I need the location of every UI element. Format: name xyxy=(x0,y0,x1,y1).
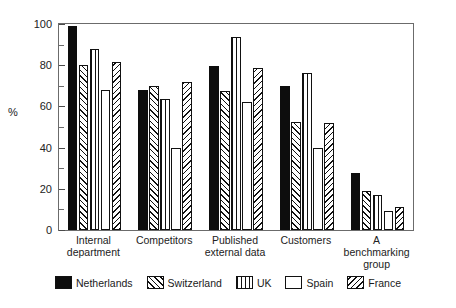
bar[interactable] xyxy=(79,65,89,230)
bar[interactable] xyxy=(68,26,78,230)
legend-item-uk[interactable]: UK xyxy=(236,276,272,289)
bar[interactable] xyxy=(280,86,290,230)
bar[interactable] xyxy=(253,68,263,230)
bar[interactable] xyxy=(313,148,323,230)
legend-item-spain[interactable]: Spain xyxy=(285,276,333,289)
bar-group xyxy=(342,24,413,230)
category-label-line: A xyxy=(329,234,424,246)
bar[interactable] xyxy=(395,207,405,230)
bar[interactable] xyxy=(242,102,252,230)
bar[interactable] xyxy=(90,49,100,230)
legend-label: Switzerland xyxy=(168,277,222,289)
category-label: Abenchmarkinggroup xyxy=(329,234,424,270)
category-label-line: benchmarking xyxy=(329,246,424,258)
legend-swatch-icon xyxy=(236,276,253,289)
bar[interactable] xyxy=(101,90,111,230)
bar[interactable] xyxy=(112,62,122,230)
legend-label: Spain xyxy=(306,277,333,289)
bar[interactable] xyxy=(302,73,312,230)
legend-label: Netherlands xyxy=(76,277,133,289)
legend-swatch-icon xyxy=(285,276,302,289)
y-tick-40: 40 xyxy=(26,142,52,153)
bar[interactable] xyxy=(351,173,361,230)
bar[interactable] xyxy=(209,66,219,230)
legend-item-france[interactable]: France xyxy=(347,276,401,289)
category-label-line: group xyxy=(329,258,424,270)
bar[interactable] xyxy=(384,211,394,230)
y-tick-80: 80 xyxy=(26,60,52,71)
plot-area xyxy=(59,24,413,230)
bar[interactable] xyxy=(171,148,181,230)
y-tick-100: 100 xyxy=(26,19,52,30)
bar[interactable] xyxy=(138,90,148,230)
category-label-line: external data xyxy=(188,246,283,258)
y-axis-tick-labels: 020406080100 xyxy=(26,18,52,234)
legend-label: UK xyxy=(257,277,272,289)
legend-swatch-icon xyxy=(347,276,364,289)
legend-swatch-icon xyxy=(147,276,164,289)
legend-item-switzerland[interactable]: Switzerland xyxy=(147,276,222,289)
bar-group xyxy=(201,24,272,230)
bar[interactable] xyxy=(324,123,334,230)
y-tick-20: 20 xyxy=(26,183,52,194)
bar-chart: % 020406080100 InternaldepartmentCompeti… xyxy=(0,0,456,308)
bar[interactable] xyxy=(220,91,230,230)
bar[interactable] xyxy=(231,37,241,230)
y-axis-title: % xyxy=(8,106,18,118)
bar[interactable] xyxy=(160,99,170,230)
category-label-line: department xyxy=(46,246,141,258)
y-tick-mark xyxy=(59,230,65,231)
legend-label: France xyxy=(368,277,401,289)
bar-group xyxy=(59,24,130,230)
bar[interactable] xyxy=(362,191,372,230)
legend-item-netherlands[interactable]: Netherlands xyxy=(55,276,133,289)
legend-swatch-icon xyxy=(55,276,72,289)
bar[interactable] xyxy=(182,82,192,230)
bar-group xyxy=(271,24,342,230)
x-axis-category-labels: InternaldepartmentCompetitorsPublishedex… xyxy=(58,234,414,274)
chart-legend: NetherlandsSwitzerlandUKSpainFrance xyxy=(0,276,456,289)
bar[interactable] xyxy=(373,195,383,230)
bar-group xyxy=(130,24,201,230)
y-tick-60: 60 xyxy=(26,101,52,112)
bar[interactable] xyxy=(149,86,159,230)
bar[interactable] xyxy=(291,122,301,230)
